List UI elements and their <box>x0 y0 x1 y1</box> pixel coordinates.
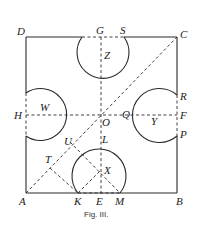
geometry-figure: D G S C R F P H O Q L U T A K E M B Z W … <box>0 0 199 231</box>
label-d: D <box>16 25 25 37</box>
label-circle-w: W <box>40 101 50 113</box>
label-p: P <box>179 128 187 140</box>
figure-caption: Fig. III. <box>84 210 108 219</box>
label-c: C <box>180 28 188 40</box>
label-m: M <box>114 195 125 207</box>
label-e: E <box>95 195 103 207</box>
label-q: Q <box>122 108 130 120</box>
label-g: G <box>96 24 104 36</box>
label-r: R <box>179 90 187 102</box>
circle-z-arc <box>77 37 129 78</box>
label-f: F <box>179 109 187 121</box>
label-circle-x: X <box>103 164 112 176</box>
label-a: A <box>18 195 26 207</box>
label-circle-y: Y <box>151 115 159 127</box>
label-h: H <box>13 109 23 121</box>
label-o: O <box>102 116 110 128</box>
label-t: T <box>45 153 52 165</box>
label-circle-z: Z <box>104 49 111 61</box>
dashed-kx <box>78 170 101 193</box>
dashed-tk <box>50 168 78 193</box>
label-k: K <box>73 195 82 207</box>
label-u: U <box>64 135 73 147</box>
label-s: S <box>120 24 126 36</box>
label-b: B <box>176 195 183 207</box>
label-l: L <box>101 133 108 145</box>
circle-w-arc <box>26 89 67 141</box>
